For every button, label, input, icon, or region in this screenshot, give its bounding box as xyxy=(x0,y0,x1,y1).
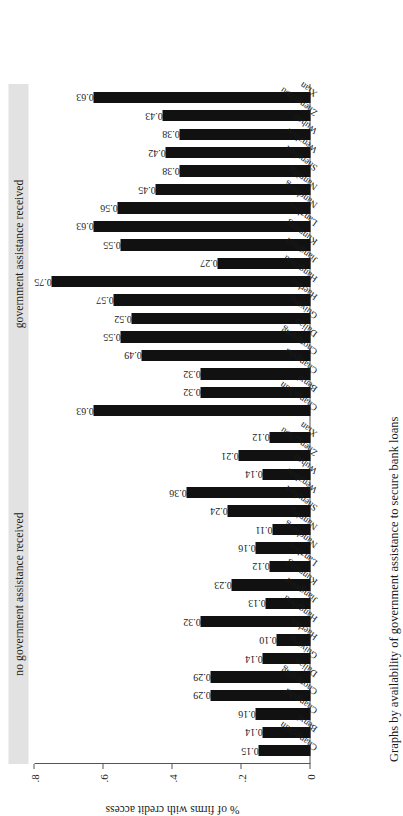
bar-value-label: 0.32 xyxy=(182,616,200,627)
bar-value-label: 0.32 xyxy=(182,387,200,398)
bar-value-label: 0.55 xyxy=(103,239,121,250)
bar[interactable] xyxy=(93,221,310,232)
bar[interactable] xyxy=(200,368,310,379)
y-axis-tick xyxy=(102,764,103,769)
panel-no-assistance: no government assistance received % of f… xyxy=(8,424,364,764)
bar-value-label: 0.24 xyxy=(210,506,228,517)
bar-column[interactable]: 0.32 xyxy=(34,383,310,401)
y-axis-tick xyxy=(33,764,34,769)
bar[interactable] xyxy=(131,313,310,324)
bar-group-no-assistance: 0.150.140.160.290.290.140.100.320.130.23… xyxy=(34,428,310,760)
bar[interactable] xyxy=(162,110,310,121)
bar-value-label: 0.15 xyxy=(241,745,259,756)
bar-value-label: 0.29 xyxy=(193,690,211,701)
y-axis-title: % of firms with credit access xyxy=(105,804,239,816)
bar-value-label: 0.42 xyxy=(148,147,166,158)
figure-caption: Graphs by availability of government ass… xyxy=(386,0,401,764)
bar-value-label: 0.10 xyxy=(258,635,276,646)
plot-area-no-assistance: % of firms with credit access 0.2.4.6.8 … xyxy=(34,424,310,764)
y-axis-tick xyxy=(171,764,172,769)
bar-column[interactable]: 0.24 xyxy=(34,502,310,520)
bar[interactable] xyxy=(113,294,310,305)
y-axis-tick-label: .2 xyxy=(235,774,247,782)
bar-value-label: 0.12 xyxy=(251,432,269,443)
bar-column[interactable]: 0.42 xyxy=(34,143,310,161)
bar-column[interactable]: 0.27 xyxy=(34,254,310,272)
panel-assistance: government assistance received 0.630.320… xyxy=(8,84,364,424)
bar[interactable] xyxy=(51,276,310,287)
bar-value-label: 0.38 xyxy=(162,129,180,140)
bar-column[interactable]: 0.16 xyxy=(34,539,310,557)
panel-title-assistance: government assistance received xyxy=(8,84,28,424)
plot-area-assistance: 0.630.320.320.490.550.520.570.750.270.55… xyxy=(34,84,310,424)
bar-value-label: 0.21 xyxy=(220,450,238,461)
bar[interactable] xyxy=(258,745,310,756)
bar-value-label: 0.56 xyxy=(100,202,118,213)
bar-column[interactable]: 0.55 xyxy=(34,236,310,254)
bar[interactable] xyxy=(120,239,310,250)
bar-value-label: 0.11 xyxy=(255,524,272,535)
bar-value-label: 0.63 xyxy=(75,221,93,232)
bar-column[interactable]: 0.14 xyxy=(34,723,310,741)
bar-column[interactable]: 0.29 xyxy=(34,668,310,686)
bar-column[interactable]: 0.38 xyxy=(34,125,310,143)
y-axis-tick-label: .8 xyxy=(28,774,40,782)
bar-value-label: 0.14 xyxy=(244,727,262,738)
bar-column[interactable]: 0.43 xyxy=(34,107,310,125)
bar-column[interactable]: 0.38 xyxy=(34,162,310,180)
panel-title-no-assistance: no government assistance received xyxy=(8,424,28,764)
bar-column[interactable]: 0.36 xyxy=(34,483,310,501)
bar-column[interactable]: 0.32 xyxy=(34,365,310,383)
bar-value-label: 0.57 xyxy=(96,295,114,306)
bar-column[interactable]: 0.14 xyxy=(34,465,310,483)
bar-column[interactable]: 0.63 xyxy=(34,88,310,106)
bar-group-assistance: 0.630.320.320.490.550.520.570.750.270.55… xyxy=(34,88,310,420)
bar-value-label: 0.16 xyxy=(238,708,256,719)
bar-value-label: 0.38 xyxy=(162,166,180,177)
bar-column[interactable]: 0.55 xyxy=(34,328,310,346)
bar-value-label: 0.63 xyxy=(75,92,93,103)
bar-column[interactable]: 0.13 xyxy=(34,594,310,612)
bar-value-label: 0.45 xyxy=(138,184,156,195)
bar-column[interactable]: 0.21 xyxy=(34,447,310,465)
bar-column[interactable]: 0.11 xyxy=(34,520,310,538)
bar-column[interactable]: 0.63 xyxy=(34,217,310,235)
panel-container: no government assistance received % of f… xyxy=(8,0,364,764)
bar-value-label: 0.36 xyxy=(169,487,187,498)
bar-value-label: 0.49 xyxy=(124,350,142,361)
bar[interactable] xyxy=(117,202,310,213)
bar-value-label: 0.14 xyxy=(244,653,262,664)
bar-column[interactable]: 0.49 xyxy=(34,346,310,364)
bar-column[interactable]: 0.16 xyxy=(34,705,310,723)
bar-value-label: 0.32 xyxy=(182,368,200,379)
bar-value-label: 0.63 xyxy=(75,405,93,416)
bar-value-label: 0.75 xyxy=(34,276,52,287)
bar-value-label: 0.14 xyxy=(244,469,262,480)
bar-column[interactable]: 0.57 xyxy=(34,291,310,309)
bar-column[interactable]: 0.10 xyxy=(34,631,310,649)
bar-value-label: 0.52 xyxy=(113,313,131,324)
bar-column[interactable]: 0.52 xyxy=(34,309,310,327)
bar-column[interactable]: 0.45 xyxy=(34,180,310,198)
bar-column[interactable]: 0.14 xyxy=(34,649,310,667)
bar-column[interactable]: 0.12 xyxy=(34,428,310,446)
y-axis-tick-label: 0 xyxy=(304,774,316,780)
bar-column[interactable]: 0.29 xyxy=(34,686,310,704)
bar-column[interactable]: 0.12 xyxy=(34,557,310,575)
y-axis-tick xyxy=(309,764,310,769)
bar-column[interactable]: 0.23 xyxy=(34,576,310,594)
bar-value-label: 0.16 xyxy=(238,542,256,553)
bar-value-label: 0.27 xyxy=(200,258,218,269)
bar-column[interactable]: 0.63 xyxy=(34,402,310,420)
bar-column[interactable]: 0.15 xyxy=(34,742,310,760)
bar[interactable] xyxy=(93,405,310,416)
bar-column[interactable]: 0.32 xyxy=(34,613,310,631)
bar-column[interactable]: 0.56 xyxy=(34,199,310,217)
bar-value-label: 0.13 xyxy=(248,598,266,609)
y-axis-tick-label: .6 xyxy=(97,774,109,782)
bar-column[interactable]: 0.75 xyxy=(34,273,310,291)
bar-value-label: 0.55 xyxy=(103,332,121,343)
y-axis-tick xyxy=(240,764,241,769)
